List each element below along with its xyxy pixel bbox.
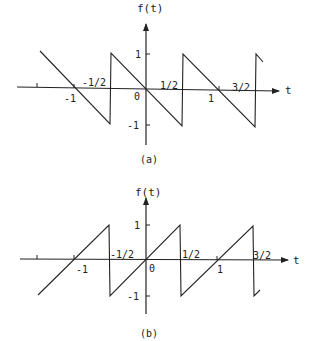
tick-label-m1: -1 bbox=[64, 93, 76, 104]
caption-a: (a) bbox=[140, 154, 158, 165]
tick-label-threehalf: 3/2 bbox=[253, 250, 271, 261]
tick-label-half: 1/2 bbox=[160, 80, 178, 91]
tick-label-m1: -1 bbox=[76, 264, 88, 275]
tick-label-y1: 1 bbox=[135, 49, 141, 60]
x-axis-label: t bbox=[293, 254, 300, 267]
tick-label-half: 1/2 bbox=[182, 249, 200, 260]
chart-b: f(t) t -1 -1/2 0 1/2 1 3/2 1 -1 (b) bbox=[20, 186, 300, 339]
caption-b: (b) bbox=[140, 328, 158, 339]
x-axis bbox=[20, 259, 288, 260]
chart-a: f(t) t -1 -1/2 0 1/2 1 3/2 1 -1 (a) bbox=[17, 2, 292, 165]
tick-label-one: 1 bbox=[208, 93, 214, 104]
figure-canvas: f(t) t -1 -1/2 0 1/2 1 3/2 1 -1 (a) f(t)… bbox=[0, 0, 312, 341]
tick-label-ym1: -1 bbox=[127, 291, 139, 302]
tick-label-ym1: -1 bbox=[127, 120, 139, 131]
y-axis-label: f(t) bbox=[137, 2, 164, 15]
tick-label-threehalf: 3/2 bbox=[232, 82, 250, 93]
y-axis-label: f(t) bbox=[135, 186, 162, 199]
tick-label-zero: 0 bbox=[134, 91, 140, 102]
sawtooth-curve-b bbox=[38, 225, 260, 296]
tick-label-mhalf: -1/2 bbox=[82, 77, 106, 88]
x-axis-label: t bbox=[285, 84, 292, 97]
tick-label-one: 1 bbox=[217, 264, 223, 275]
tick-label-mhalf: -1/2 bbox=[110, 249, 134, 260]
tick-label-y1: 1 bbox=[134, 220, 140, 231]
tick-label-zero: 0 bbox=[149, 263, 155, 274]
